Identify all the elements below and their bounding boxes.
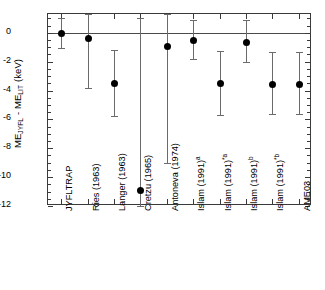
y-axis-minor-tick	[48, 155, 51, 156]
x-axis-tick-label-text: Islam (1991)	[249, 160, 259, 211]
x-axis-tick-label: Langer (1963)	[117, 153, 127, 211]
y-axis-minor-tick	[307, 141, 310, 142]
x-axis-tick-labels: JYFLTRAPRies (1963)Langer (1963)Cretzu (…	[47, 205, 311, 290]
y-axis-tick-label: -12	[0, 200, 11, 209]
y-axis-minor-tick	[307, 170, 310, 171]
x-axis-tick	[193, 14, 194, 19]
x-axis-tick-label-text: Ries (1963)	[91, 164, 101, 212]
x-axis-tick-label-superscript: *a	[221, 154, 228, 160]
error-bar-cap-upper	[164, 14, 171, 15]
y-axis-minor-tick	[48, 112, 51, 113]
error-bar-cap-lower	[111, 116, 118, 117]
y-axis-tick	[305, 62, 310, 63]
data-point-marker	[217, 80, 224, 87]
x-axis-tick	[114, 199, 115, 204]
y-axis-minor-tick	[307, 155, 310, 156]
y-axis-minor-tick	[307, 76, 310, 77]
x-axis-tick-label-text: JYFLTRAP	[64, 166, 74, 211]
y-axis-tick	[48, 119, 53, 120]
x-axis-tick-label: Antoneva (1974)	[170, 143, 180, 211]
x-axis-tick	[246, 199, 247, 204]
y-axis-minor-tick	[48, 192, 51, 193]
x-axis-tick-label-superscript: *b	[273, 154, 280, 160]
y-axis-tick-label: -8	[0, 142, 11, 151]
error-bar-cap-lower	[58, 48, 65, 49]
data-point-marker	[58, 30, 65, 37]
y-axis-minor-tick	[48, 26, 51, 27]
error-bar	[140, 18, 141, 206]
data-point-marker	[164, 43, 171, 50]
x-axis-tick	[272, 199, 273, 204]
y-axis-minor-tick	[48, 163, 51, 164]
error-bar-cap-upper	[85, 14, 92, 15]
x-axis-tick-label: Islam (1991)b	[249, 156, 259, 211]
error-bar-cap-upper	[58, 18, 65, 19]
x-axis-tick	[246, 14, 247, 19]
y-axis-label-units: (keV)	[12, 59, 23, 85]
y-axis-tick	[305, 33, 310, 34]
y-axis-minor-tick	[307, 40, 310, 41]
error-bar-cap-lower	[243, 62, 250, 63]
y-axis-minor-tick	[48, 134, 51, 135]
y-axis-tick	[48, 91, 53, 92]
y-axis-minor-tick	[48, 40, 51, 41]
x-axis-tick	[220, 199, 221, 204]
data-point-marker	[296, 81, 303, 88]
y-axis-minor-tick	[48, 54, 51, 55]
y-axis-minor-tick	[48, 105, 51, 106]
data-point-marker	[243, 39, 250, 46]
y-axis-minor-tick	[48, 83, 51, 84]
x-axis-tick-label-text: Islam (1991)	[196, 160, 206, 211]
x-axis-tick-label-text: Langer (1963)	[117, 153, 127, 211]
y-axis-tick-label: -2	[0, 56, 11, 65]
x-axis-tick-label-text: AME03	[302, 181, 312, 211]
error-bar-cap-lower	[217, 115, 224, 116]
y-axis-minor-tick	[307, 47, 310, 48]
x-axis-tick	[61, 199, 62, 204]
y-axis-tick	[48, 33, 53, 34]
y-axis-tick	[305, 177, 310, 178]
y-axis-minor-tick	[307, 69, 310, 70]
y-axis-minor-tick	[307, 112, 310, 113]
x-axis-tick-label-superscript: a	[194, 156, 201, 160]
data-point-marker	[85, 35, 92, 42]
y-axis-minor-tick	[48, 141, 51, 142]
error-bar-cap-lower	[269, 114, 276, 115]
data-point-marker	[190, 37, 197, 44]
x-axis-tick-label: Islam (1991)*a	[223, 154, 233, 211]
y-axis-minor-tick	[48, 127, 51, 128]
x-axis-tick	[272, 14, 273, 19]
error-bar-cap-upper	[269, 52, 276, 53]
error-bar	[88, 14, 89, 88]
y-axis-label-sub-lit: LIT	[17, 85, 24, 95]
y-axis-minor-tick	[48, 69, 51, 70]
x-axis-tick	[88, 199, 89, 204]
x-axis-tick	[220, 14, 221, 19]
y-axis-label-sub-jyfl: JYFL	[17, 118, 24, 134]
x-axis-tick	[193, 199, 194, 204]
y-axis-tick	[305, 148, 310, 149]
x-axis-tick-label: Islam (1991)*b	[275, 154, 285, 211]
x-axis-tick-label: AME03	[302, 181, 312, 211]
x-axis-tick	[167, 199, 168, 204]
error-bar-cap-lower	[190, 59, 197, 60]
y-axis-tick-label: -4	[0, 85, 11, 94]
x-axis-tick-label-text: Islam (1991)	[223, 160, 233, 211]
error-bar-cap-lower	[296, 114, 303, 115]
data-point-marker	[111, 80, 118, 87]
y-axis-label: MEJYFL - MELIT (keV)	[12, 24, 23, 184]
y-axis-minor-tick	[48, 98, 51, 99]
y-axis-label-lead: ME	[12, 134, 23, 148]
y-axis-tick	[48, 177, 53, 178]
x-axis-tick-label-text: Islam (1991)	[275, 160, 285, 211]
x-axis-tick-label: JYFLTRAP	[64, 166, 74, 211]
y-axis-minor-tick	[307, 127, 310, 128]
y-axis-tick	[305, 119, 310, 120]
figure: MEJYFL - MELIT (keV) 0-2-4-6-8-10-12 JYF…	[0, 0, 325, 290]
x-axis-tick	[299, 199, 300, 204]
y-axis-label-mid: - ME	[12, 95, 23, 118]
y-axis-tick	[48, 148, 53, 149]
y-axis-minor-tick	[307, 18, 310, 19]
y-axis-minor-tick	[307, 26, 310, 27]
y-axis-minor-tick	[307, 83, 310, 84]
